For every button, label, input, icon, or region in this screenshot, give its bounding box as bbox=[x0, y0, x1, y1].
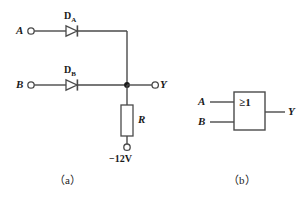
resistor-label-r: R bbox=[138, 114, 145, 125]
input-label-a: A bbox=[16, 25, 23, 36]
terminal-circle-y bbox=[152, 82, 158, 88]
diode-db-triangle bbox=[66, 80, 77, 90]
caption-a: （a） bbox=[54, 175, 81, 186]
gate-symbol-or: ≥1 bbox=[239, 97, 251, 108]
diode-label-da: DA bbox=[64, 11, 76, 24]
supply-label: −12V bbox=[109, 154, 132, 164]
terminal-circle-supply bbox=[124, 144, 130, 150]
gate-output-label-y: Y bbox=[288, 106, 295, 117]
circuit-drawing bbox=[0, 0, 304, 201]
diode-label-db: DB bbox=[64, 65, 76, 78]
input-label-b: B bbox=[16, 79, 23, 90]
resistor-body bbox=[121, 105, 133, 136]
terminal-circle-b bbox=[28, 82, 34, 88]
caption-b: （b） bbox=[228, 175, 256, 186]
gate-input-label-a: A bbox=[198, 96, 205, 107]
output-label-y: Y bbox=[160, 79, 167, 90]
terminal-circle-a bbox=[28, 28, 34, 34]
diode-da-triangle bbox=[66, 26, 77, 36]
gate-input-label-b: B bbox=[198, 116, 205, 127]
figure-root: A B DA DB Y R −12V （a） A B ≥1 Y （b） bbox=[0, 0, 304, 201]
